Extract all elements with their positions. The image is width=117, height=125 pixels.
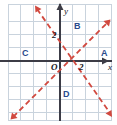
y-tick-label-2: 2 <box>52 31 57 40</box>
region-label-c: C <box>22 49 29 58</box>
arrowhead-icon <box>106 110 113 117</box>
region-label-b: B <box>74 22 81 31</box>
region-label-d: D <box>63 90 70 99</box>
y-axis-label: y <box>64 7 68 16</box>
region-label-a: A <box>101 49 108 58</box>
x-tick-label-2: 2 <box>79 63 84 72</box>
origin-label: O <box>51 63 58 72</box>
x-axis-label: x <box>108 63 112 72</box>
line-positive-slope <box>11 20 111 120</box>
dashed-lines-group <box>0 0 117 125</box>
coordinate-plane-figure: A B C D O 2 2 x y <box>0 0 117 125</box>
